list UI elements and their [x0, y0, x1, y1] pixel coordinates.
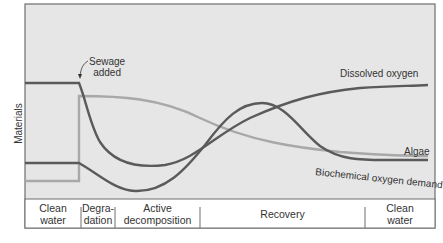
sewage-annotation: Sewage added — [89, 56, 125, 78]
label-algae: Algae — [404, 146, 430, 157]
stage-line: Clean — [25, 202, 81, 214]
stage-clean-water-2: Clean water — [365, 202, 435, 226]
stage-active-decomposition: Active decomposition — [115, 202, 200, 226]
stage-line: Degra- — [81, 202, 115, 214]
stage-line: water — [25, 214, 81, 226]
sewage-line1: Sewage — [89, 56, 125, 67]
stage-degradation: Degra- dation — [81, 202, 115, 226]
stage-recovery: Recovery — [200, 208, 365, 220]
stage-line: dation — [81, 214, 115, 226]
stage-line: Recovery — [200, 208, 365, 220]
label-dissolved-oxygen: Dissolved oxygen — [340, 68, 418, 79]
stage-clean-water-1: Clean water — [25, 202, 81, 226]
stage-line: Clean — [365, 202, 435, 214]
stage-line: water — [365, 214, 435, 226]
sewage-line2: added — [89, 67, 125, 78]
stage-line: decomposition — [115, 214, 200, 226]
y-axis-label: Materials — [13, 99, 24, 149]
stage-line: Active — [115, 202, 200, 214]
